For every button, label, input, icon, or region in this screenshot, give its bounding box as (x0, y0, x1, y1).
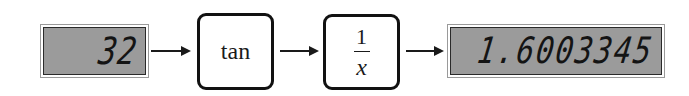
reciprocal-denominator: x (356, 55, 367, 79)
arrow-2 (280, 50, 317, 52)
tan-key-label: tan (221, 38, 250, 65)
reciprocal-key[interactable]: 1 x (323, 14, 400, 90)
input-display: 32 (40, 24, 149, 78)
output-display-value: 1.6003345 (475, 33, 655, 69)
arrow-1 (151, 50, 189, 52)
tan-key[interactable]: tan (197, 13, 274, 90)
arrow-3 (406, 50, 442, 52)
input-display-value: 32 (96, 32, 139, 70)
reciprocal-numerator: 1 (356, 25, 367, 49)
fraction-bar (354, 51, 370, 53)
output-display-screen: 1.6003345 (450, 27, 662, 75)
output-display: 1.6003345 (447, 24, 665, 78)
input-display-screen: 32 (43, 27, 146, 75)
reciprocal-fraction: 1 x (354, 25, 370, 80)
